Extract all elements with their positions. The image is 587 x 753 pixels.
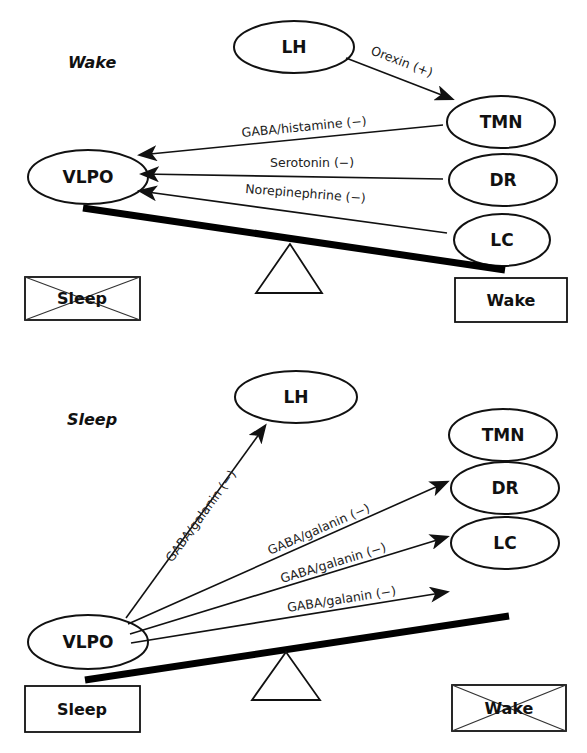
orexin-label: Orexin (+) xyxy=(369,43,435,80)
sleep-node-dr: DR xyxy=(451,462,559,514)
wake-node-dr-label: DR xyxy=(489,170,516,190)
vlpo-lh-label: GABA/galanin (−) xyxy=(162,467,239,565)
sleep-box-label: Sleep xyxy=(57,700,107,719)
wake-node-lc-label: LC xyxy=(490,230,513,250)
wake-node-vlpo: VLPO xyxy=(28,150,148,204)
wake-node-lh-label: LH xyxy=(281,37,306,57)
sleep-node-dr-label: DR xyxy=(491,478,518,498)
sleep-panel-wake-box: Wake xyxy=(452,685,566,731)
wake-node-tmn-label: TMN xyxy=(480,112,523,132)
wake-node-lh: LH xyxy=(234,21,354,73)
sleep-node-tmn: TMN xyxy=(449,409,557,461)
sleep-panel-title: Sleep xyxy=(67,410,117,429)
wake-edge-gaba-histamine: GABA/histamine (−) xyxy=(140,113,443,155)
wake-edge-serotonin: Serotonin (−) xyxy=(142,155,443,179)
sleep-wake-flip-flop-diagram: Wake LH Orexin (+) TMN DR LC VL xyxy=(0,0,587,753)
serotonin-label: Serotonin (−) xyxy=(270,155,354,170)
sleep-node-tmn-label: TMN xyxy=(482,425,525,445)
sleep-panel: Sleep LH TMN DR LC VLPO GABA/ga xyxy=(25,371,566,732)
wake-seesaw-fulcrum xyxy=(256,244,322,293)
sleep-edge-vlpo-lh: GABA/galanin (−) xyxy=(126,426,265,618)
vlpo-lc-label: GABA/galanin (−) xyxy=(286,583,397,615)
wake-panel-title: Wake xyxy=(68,53,116,72)
sleep-box-label: Sleep xyxy=(57,289,107,308)
wake-panel-wake-box: Wake xyxy=(455,278,567,322)
sleep-seesaw-fulcrum xyxy=(252,652,320,700)
sleep-node-lh-label: LH xyxy=(283,387,308,407)
wake-node-tmn: TMN xyxy=(447,96,555,148)
wake-node-dr: DR xyxy=(449,154,557,206)
wake-panel: Wake LH Orexin (+) TMN DR LC VL xyxy=(25,21,567,322)
wake-box-label: Wake xyxy=(485,699,534,718)
norepinephrine-label: Norepinephrine (−) xyxy=(245,181,367,205)
wake-edge-orexin: Orexin (+) xyxy=(346,43,452,99)
wake-node-lc: LC xyxy=(454,214,550,266)
sleep-node-lc-label: LC xyxy=(493,533,516,553)
wake-panel-sleep-box: Sleep xyxy=(25,277,140,320)
wake-node-vlpo-label: VLPO xyxy=(63,167,114,187)
wake-box-label: Wake xyxy=(487,291,536,310)
sleep-panel-sleep-box: Sleep xyxy=(25,686,140,732)
sleep-node-lc: LC xyxy=(451,517,559,569)
sleep-node-lh: LH xyxy=(235,371,357,423)
gaba-histamine-label: GABA/histamine (−) xyxy=(241,113,367,140)
sleep-node-vlpo-label: VLPO xyxy=(63,632,114,652)
